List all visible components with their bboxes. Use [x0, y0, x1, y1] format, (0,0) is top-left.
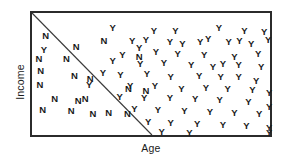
data-point-n: N — [39, 105, 46, 115]
data-point-y: Y — [207, 107, 213, 117]
data-point-y: Y — [100, 68, 106, 78]
data-point-n: N — [63, 55, 70, 65]
data-point-y: Y — [266, 128, 272, 138]
data-point-y: Y — [116, 92, 122, 102]
y-axis-label: Income — [14, 64, 26, 100]
data-point-y: Y — [119, 50, 125, 60]
data-point-y: Y — [167, 37, 173, 47]
data-point-y: Y — [266, 102, 272, 112]
data-point-y: Y — [236, 36, 242, 46]
data-point-y: Y — [129, 36, 135, 46]
data-point-n: N — [75, 96, 82, 106]
data-point-y: Y — [217, 95, 223, 105]
data-point-y: Y — [152, 81, 158, 91]
scatter-plot-figure: Income YYYYYYYYYYYYYYYYYYYYYYYYYYYYYYYYY… — [0, 0, 284, 164]
data-point-n: N — [71, 71, 78, 81]
data-point-y: Y — [203, 83, 209, 93]
data-point-y: Y — [192, 94, 198, 104]
data-point-n: N — [143, 87, 150, 97]
data-point-y: Y — [153, 47, 159, 57]
data-point-n: N — [68, 106, 75, 116]
data-point-y: Y — [256, 109, 262, 119]
data-point-y: Y — [231, 108, 237, 118]
data-point-y: Y — [205, 34, 211, 44]
data-point-n: N — [105, 108, 112, 118]
data-point-y: Y — [172, 27, 178, 37]
data-point-n: N — [100, 36, 107, 46]
data-point-n: N — [124, 109, 131, 119]
data-point-n: N — [51, 94, 58, 104]
data-point-n: N — [125, 84, 132, 94]
plot-area: YYYYYYYYYYYYYYYYYYYYYYYYYYYYYYYYYYYYYYYY… — [30, 11, 272, 137]
data-point-y: Y — [110, 57, 116, 67]
data-point-y: Y — [155, 105, 161, 115]
data-point-y: Y — [110, 23, 116, 33]
data-point-n: N — [73, 42, 80, 52]
data-point-y: Y — [181, 106, 187, 116]
data-point-n: N — [42, 31, 49, 41]
data-point-y: Y — [201, 50, 207, 60]
data-point-y: Y — [167, 93, 173, 103]
data-point-y: Y — [225, 37, 231, 47]
data-point-y: Y — [248, 39, 254, 49]
data-point-n: N — [87, 74, 94, 84]
data-point-n: N — [136, 52, 143, 62]
data-point-y: Y — [245, 97, 251, 107]
data-point-n: N — [36, 80, 43, 90]
data-point-y: Y — [210, 62, 216, 72]
data-point-y: Y — [220, 121, 226, 131]
data-point-y: Y — [265, 35, 271, 45]
data-point-y: Y — [168, 72, 174, 82]
data-point-y: Y — [235, 72, 241, 82]
data-point-n: N — [37, 66, 44, 76]
data-point-y: Y — [243, 122, 249, 132]
data-point-y: Y — [186, 128, 192, 138]
data-point-n: N — [82, 94, 89, 104]
data-point-y: Y — [188, 61, 194, 71]
data-point-y: Y — [194, 120, 200, 130]
data-point-y: Y — [235, 61, 241, 71]
data-point-y: Y — [144, 69, 150, 79]
data-point-y: Y — [196, 71, 202, 81]
data-point-y: Y — [117, 70, 123, 80]
data-point-y: Y — [224, 84, 230, 94]
data-point-y: Y — [249, 86, 255, 96]
data-point-n: N — [35, 55, 42, 65]
x-axis-label: Age — [30, 142, 272, 154]
data-point-y: Y — [266, 89, 272, 99]
data-point-n: N — [89, 109, 96, 119]
data-point-y: Y — [159, 127, 165, 137]
data-point-y: Y — [216, 24, 222, 34]
data-point-y: Y — [178, 84, 184, 94]
data-point-y: Y — [143, 35, 149, 45]
data-point-y: Y — [255, 49, 261, 59]
data-point-y: Y — [131, 104, 137, 114]
data-point-y: Y — [174, 49, 180, 59]
data-point-y: Y — [220, 60, 226, 70]
data-point-y: Y — [218, 72, 224, 82]
data-point-y: Y — [168, 119, 174, 129]
data-point-y: Y — [145, 118, 151, 128]
data-point-y: Y — [197, 37, 203, 47]
data-point-y: Y — [151, 27, 157, 37]
data-point-y: Y — [161, 59, 167, 69]
data-point-y: Y — [258, 62, 264, 72]
